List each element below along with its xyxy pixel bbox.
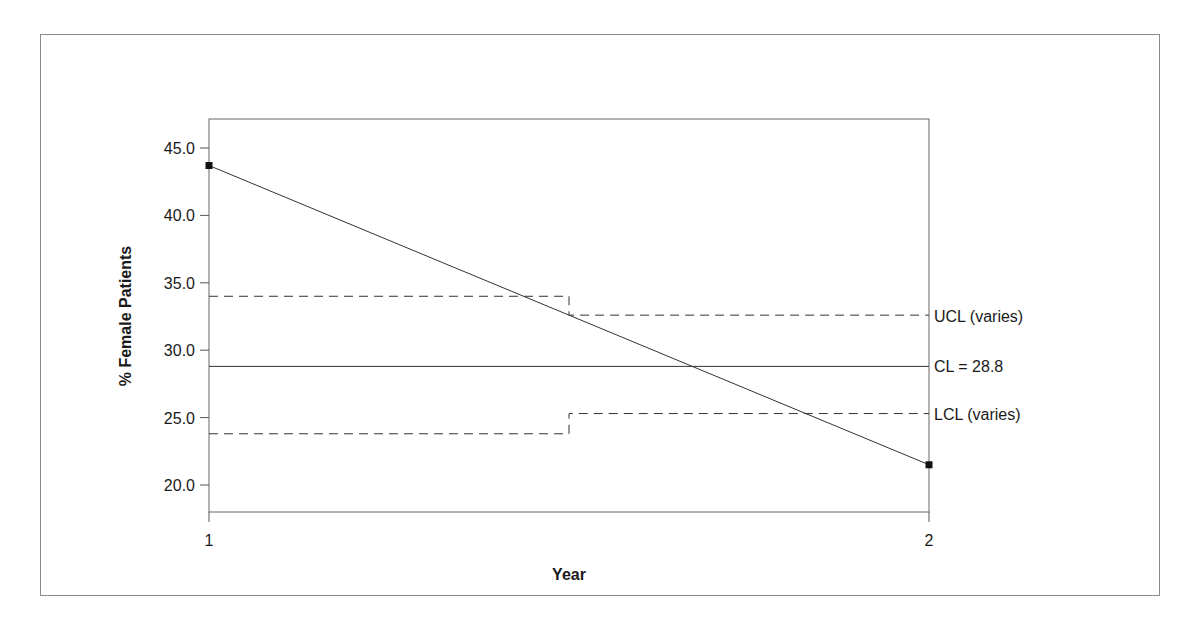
lcl-line	[209, 414, 929, 434]
x-tick-label: 1	[205, 532, 214, 549]
x-axis-ticks: 12	[205, 512, 934, 549]
ucl-line	[209, 296, 929, 315]
data-point-marker	[926, 461, 933, 468]
cl-label: CL = 28.8	[934, 358, 1003, 375]
y-tick-label: 20.0	[164, 477, 195, 494]
y-tick-label: 45.0	[164, 140, 195, 157]
ucl-label: UCL (varies)	[934, 308, 1023, 325]
y-axis-ticks: 20.025.030.035.040.045.0	[164, 140, 209, 494]
x-axis-title: Year	[552, 566, 586, 583]
control-limits	[209, 296, 929, 433]
y-tick-label: 35.0	[164, 275, 195, 292]
data-point-marker	[206, 162, 213, 169]
y-tick-label: 30.0	[164, 342, 195, 359]
y-tick-label: 40.0	[164, 207, 195, 224]
y-tick-label: 25.0	[164, 410, 195, 427]
x-tick-label: 2	[925, 532, 934, 549]
lcl-label: LCL (varies)	[934, 406, 1021, 423]
y-axis-title: % Female Patients	[117, 246, 134, 387]
control-chart: 20.025.030.035.040.045.0 12 % Female Pat…	[0, 0, 1201, 627]
